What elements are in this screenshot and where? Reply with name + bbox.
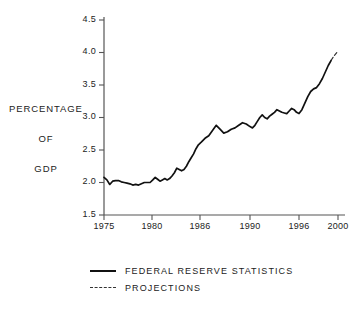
dashed-line-swatch-icon xyxy=(90,283,116,293)
legend-item-projections: PROJECTIONS xyxy=(90,279,360,296)
legend-item-federal-reserve-statistics: FEDERAL RESERVE STATISTICS xyxy=(90,262,360,279)
y-axis-ticks xyxy=(99,20,104,215)
line-chart-figure: PERCENTAGE OF GDP 4.5 4.0 3.5 3.0 2.5 2.… xyxy=(0,0,363,310)
data-line-projections xyxy=(331,51,338,60)
data-line-federal-reserve-statistics xyxy=(104,60,331,185)
solid-line-swatch-icon xyxy=(90,266,116,276)
chart-legend: FEDERAL RESERVE STATISTICS PROJECTIONS xyxy=(90,262,360,296)
legend-label: FEDERAL RESERVE STATISTICS xyxy=(125,266,293,276)
x-axis-ticks xyxy=(104,215,338,220)
legend-label: PROJECTIONS xyxy=(125,283,201,293)
